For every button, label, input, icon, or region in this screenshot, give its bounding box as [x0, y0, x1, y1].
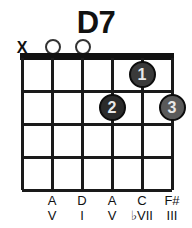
note-name-5: C	[127, 193, 157, 208]
note-degree-4: V	[97, 208, 127, 223]
string-line-4	[111, 58, 114, 190]
string-line-2	[51, 58, 54, 190]
chord-diagram: D7 X 123 AVDIAVC♭VIIF#III	[0, 0, 192, 228]
note-name-2: A	[37, 193, 67, 208]
note-label-string-5: C♭VII	[127, 193, 157, 223]
fretboard-grid: 123	[22, 58, 172, 190]
note-labels-row: AVDIAVC♭VIIF#III	[0, 193, 192, 227]
note-degree-6: III	[157, 208, 187, 223]
note-label-string-6: F#III	[157, 193, 187, 223]
fret-line-2	[22, 123, 172, 126]
string-line-1	[21, 58, 24, 190]
chord-title: D7	[0, 6, 192, 40]
string-line-6	[171, 58, 174, 190]
finger-dot-1: 1	[129, 61, 156, 88]
note-label-string-4: AV	[97, 193, 127, 223]
note-label-string-3: DI	[67, 193, 97, 223]
string-line-3	[81, 58, 84, 190]
nut-bar	[20, 53, 174, 60]
finger-dot-2: 2	[99, 94, 126, 121]
finger-dot-3: 3	[159, 94, 186, 121]
fret-line-4	[22, 189, 172, 192]
note-name-3: D	[67, 193, 97, 208]
note-label-string-2: AV	[37, 193, 67, 223]
note-degree-5: ♭VII	[127, 208, 157, 223]
note-degree-2: V	[37, 208, 67, 223]
note-degree-3: I	[67, 208, 97, 223]
note-name-4: A	[97, 193, 127, 208]
note-name-6: F#	[157, 193, 187, 208]
fret-line-1	[22, 90, 172, 93]
fret-line-3	[22, 156, 172, 159]
